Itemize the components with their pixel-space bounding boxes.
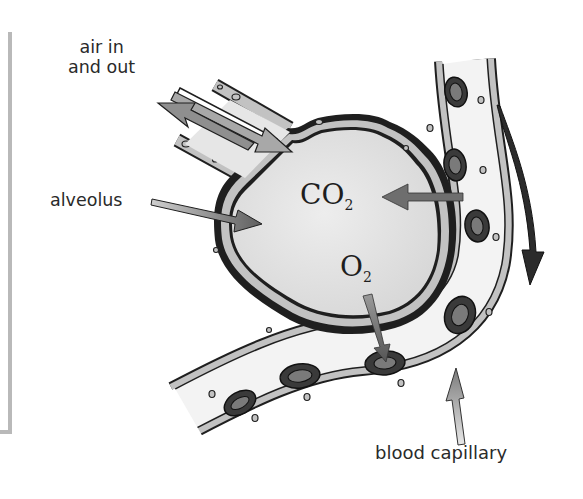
alveolus-label: alveolus <box>50 190 123 210</box>
air-label-line2: and out <box>68 57 135 77</box>
blood-capillary-label: blood capillary <box>375 443 507 464</box>
co2-main: CO <box>300 178 344 211</box>
co2-label: CO2 <box>300 178 353 213</box>
capillary-pointer-arrow <box>446 368 465 445</box>
o2-label: O2 <box>340 250 372 285</box>
diagram-frame: air in and out alveolus blood capillary … <box>0 0 583 499</box>
air-in-out-label: air in and out <box>68 37 135 77</box>
co2-subscript: 2 <box>344 197 353 213</box>
o2-main: O <box>340 250 363 283</box>
air-label-line1: air in <box>68 37 135 57</box>
o2-subscript: 2 <box>363 269 372 285</box>
